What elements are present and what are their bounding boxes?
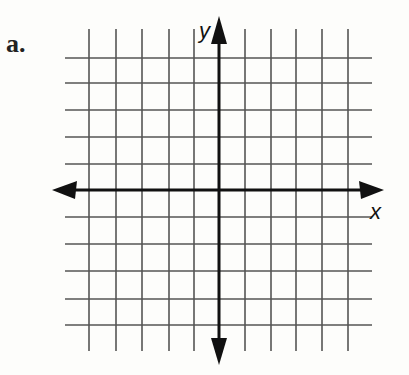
x-axis-left-arrow-icon (52, 181, 77, 199)
x-axis-label: x (369, 199, 382, 224)
y-axis-down-arrow-icon (211, 338, 227, 365)
coordinate-grid: y x (0, 0, 409, 375)
x-axis-right-arrow-icon (359, 181, 384, 199)
y-axis-up-arrow-icon (211, 16, 227, 44)
y-axis-label: y (197, 18, 212, 43)
